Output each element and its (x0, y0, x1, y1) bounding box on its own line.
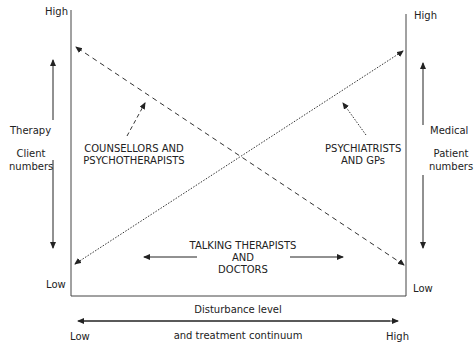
right-subtitle-line2: numbers (428, 161, 474, 173)
left-subtitle-line2: numbers (9, 161, 53, 173)
right-high-label: High (414, 10, 437, 22)
left-axis-title: Therapy (10, 125, 51, 137)
left-axis-subtitle: Client numbers (9, 148, 53, 173)
talking-line1: TALKING THERAPISTS (183, 240, 303, 252)
right-axis-title: Medical (430, 125, 468, 137)
psychiatrists-line1: PSYCHIATRISTS (325, 143, 401, 155)
counsellors-pointer (127, 103, 145, 136)
talking-therapists-label: TALKING THERAPISTS AND DOCTORS (183, 240, 303, 276)
right-axis-subtitle: Patient numbers (428, 148, 474, 173)
left-subtitle-line1: Client (9, 148, 53, 160)
left-high-label: High (45, 6, 68, 18)
counsellors-label: COUNSELLORS AND PSYCHOTHERAPISTS (82, 143, 186, 167)
left-low-label: Low (46, 279, 66, 291)
diagram-canvas (0, 0, 476, 351)
psychiatrists-pointer (343, 103, 366, 135)
talking-line3: DOCTORS (183, 264, 303, 276)
bottom-high-label: High (386, 331, 409, 343)
right-subtitle-line1: Patient (428, 148, 474, 160)
right-low-label: Low (413, 283, 433, 295)
bottom-axis-title: Disturbance level (178, 304, 298, 316)
counsellors-line2: PSYCHOTHERAPISTS (82, 155, 186, 167)
psychiatrists-line2: AND GPs (325, 155, 401, 167)
psychiatrists-label: PSYCHIATRISTS AND GPs (325, 143, 401, 167)
talking-line2: AND (183, 252, 303, 264)
bottom-low-label: Low (70, 331, 90, 343)
counsellors-line1: COUNSELLORS AND (82, 143, 186, 155)
bottom-axis-subtitle: and treatment continuum (168, 330, 308, 342)
